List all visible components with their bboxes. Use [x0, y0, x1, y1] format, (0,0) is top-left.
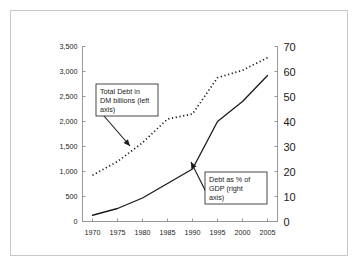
- right-axis-tick-label: 30: [284, 141, 296, 153]
- right-axis-tick-label: 20: [284, 166, 296, 178]
- left-axis-tick-label: 3,000: [60, 67, 78, 76]
- callout-right-series-line: Debt as % of: [209, 175, 250, 184]
- x-axis-tick-label: 1980: [135, 228, 151, 237]
- x-axis-tick-label: 1975: [110, 228, 126, 237]
- x-axis-tick-label: 1995: [210, 228, 226, 237]
- callout-left-series-line: DM billions (left: [100, 96, 149, 105]
- x-axis-tick-label: 2005: [260, 228, 276, 237]
- x-axis-tick-label: 1985: [160, 228, 176, 237]
- figure-root: 05001,0001,5002,0002,5003,0003,500010203…: [0, 0, 360, 268]
- x-axis-tick-label: 1970: [85, 228, 101, 237]
- left-axis-tick-label: 1,500: [60, 142, 78, 151]
- callout-left-series-line: axis): [100, 105, 115, 114]
- right-axis-tick-label: 40: [284, 116, 296, 128]
- callout-right-series-line: GDP (right: [209, 184, 243, 193]
- left-axis-tick-label: 1,000: [60, 167, 78, 176]
- x-axis-tick-label: 2000: [235, 228, 251, 237]
- left-axis-tick-label: 0: [74, 217, 78, 226]
- callout-left-series-line: Total Debt in: [100, 87, 140, 96]
- series-debt-pct-gdp: [93, 58, 268, 176]
- left-axis-tick-label: 2,500: [60, 92, 78, 101]
- right-axis-tick-label: 0: [284, 216, 290, 228]
- right-axis-tick-label: 50: [284, 91, 296, 103]
- right-axis-tick-label: 10: [284, 191, 296, 203]
- callout-right-series-line: axis): [209, 193, 224, 202]
- left-axis-tick-label: 500: [66, 192, 78, 201]
- right-axis-tick-label: 60: [284, 66, 296, 78]
- left-axis-tick-label: 2,000: [60, 117, 78, 126]
- right-axis-tick-label: 70: [284, 41, 296, 53]
- chart-canvas: 05001,0001,5002,0002,5003,0003,500010203…: [0, 0, 360, 268]
- x-axis-tick-label: 1990: [185, 228, 201, 237]
- left-axis-tick-label: 3,500: [60, 42, 78, 51]
